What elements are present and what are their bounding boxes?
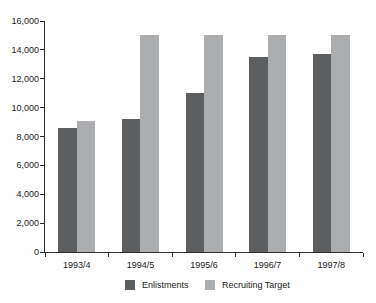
x-axis-label: 1996/7	[254, 260, 282, 270]
x-axis-label: 1997/8	[317, 260, 345, 270]
bar-recruiting-target-1994-5	[140, 35, 159, 252]
bar-enlistments-1997-8	[313, 54, 332, 252]
y-axis-tick	[40, 78, 44, 79]
legend-item-recruiting-target: Recruiting Target	[205, 279, 290, 290]
bar-recruiting-target-1997-8	[331, 35, 350, 252]
bar-enlistments-1995-6	[186, 93, 205, 252]
y-axis-tick	[40, 107, 44, 108]
legend-label-enlistments: Enlistments	[142, 280, 189, 290]
y-axis-tick	[40, 136, 44, 137]
x-axis-tick	[299, 253, 300, 257]
bar-enlistments-1993-4	[58, 128, 77, 252]
plot-area: 02,0004,0006,0008,00010,00012,00014,0001…	[44, 21, 363, 253]
y-axis-tick	[40, 194, 44, 195]
y-axis-label: 16,000	[11, 17, 39, 26]
y-axis-label: 6,000	[16, 161, 39, 170]
y-axis-tick	[40, 165, 44, 166]
x-axis-label: 1993/4	[63, 260, 91, 270]
x-axis-tick	[363, 253, 364, 257]
legend-label-recruiting-target: Recruiting Target	[222, 280, 290, 290]
y-axis-label: 14,000	[11, 45, 39, 54]
x-axis-label: 1995/6	[190, 260, 218, 270]
y-axis-label: 8,000	[16, 132, 39, 141]
y-axis-label: 10,000	[11, 103, 39, 112]
bar-recruiting-target-1993-4	[77, 121, 96, 252]
bar-chart-figure: 02,0004,0006,0008,00010,00012,00014,0001…	[0, 0, 376, 303]
y-axis-tick	[40, 21, 44, 22]
bar-recruiting-target-1996-7	[268, 35, 287, 252]
y-axis-label: 4,000	[16, 190, 39, 199]
y-axis-tick	[40, 223, 44, 224]
bar-enlistments-1996-7	[249, 57, 268, 252]
y-axis-tick	[40, 252, 44, 253]
y-axis-label: 2,000	[16, 219, 39, 228]
y-axis-tick	[40, 49, 44, 50]
x-axis-tick	[108, 253, 109, 257]
x-axis-tick	[45, 253, 46, 257]
bar-recruiting-target-1995-6	[204, 35, 223, 252]
legend-swatch-enlistments	[125, 280, 135, 290]
x-axis-tick	[172, 253, 173, 257]
y-axis-label: 12,000	[11, 74, 39, 83]
y-axis-label: 0	[34, 248, 39, 257]
legend-swatch-recruiting-target	[205, 280, 215, 290]
bar-enlistments-1994-5	[122, 119, 141, 252]
x-axis-label: 1994/5	[127, 260, 155, 270]
x-axis-tick	[235, 253, 236, 257]
legend-item-enlistments: Enlistments	[125, 279, 189, 290]
